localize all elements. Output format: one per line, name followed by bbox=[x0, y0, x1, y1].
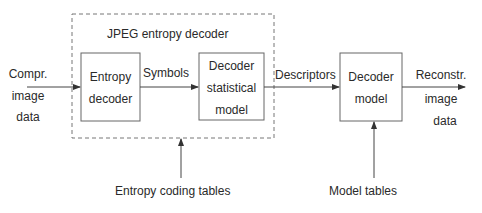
entropy-decoder-line2: decoder bbox=[81, 92, 140, 106]
model-tables-label: Model tables bbox=[329, 184, 397, 198]
entropy-decoder-box bbox=[81, 53, 140, 121]
decoder-model-line2: model bbox=[340, 92, 402, 106]
output-label-line2: image bbox=[406, 92, 476, 106]
input-label-line2: image bbox=[0, 89, 56, 103]
entropy-decoder-line1: Entropy bbox=[81, 70, 140, 84]
jpeg-entropy-decoder-diagram: JPEG entropy decoder Entropy decoder Dec… bbox=[0, 0, 482, 213]
symbols-label: Symbols bbox=[143, 66, 189, 80]
output-label-line1: Reconstr. bbox=[406, 68, 476, 82]
decoder-model-line1: Decoder bbox=[340, 70, 402, 84]
statistical-model-line1: Decoder bbox=[199, 59, 264, 73]
entropy-coding-tables-label: Entropy coding tables bbox=[115, 184, 230, 198]
decoder-model-box bbox=[340, 53, 402, 121]
output-label-line3: data bbox=[410, 114, 480, 128]
input-label-line1: Compr. bbox=[0, 67, 56, 81]
descriptors-label: Descriptors bbox=[275, 68, 336, 82]
container-title: JPEG entropy decoder bbox=[107, 27, 228, 41]
input-label-line3: data bbox=[0, 110, 56, 124]
statistical-model-line2: statistical bbox=[199, 81, 264, 95]
statistical-model-line3: model bbox=[199, 103, 264, 117]
